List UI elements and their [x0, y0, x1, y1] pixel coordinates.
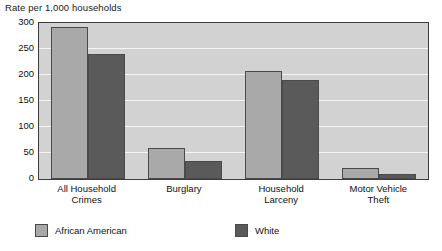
bar-1-2 [282, 80, 319, 179]
x-tick-label-3: Motor VehicleTheft [350, 183, 408, 205]
bar-chart-figure: Rate per 1,000 households 05010015020025… [0, 0, 442, 251]
legend-entry-1: White [235, 222, 279, 238]
x-tick-label-line: Theft [350, 194, 408, 205]
chart-legend: African AmericanWhite [0, 222, 442, 244]
x-tick-label-line: Household [258, 183, 303, 194]
bars-layer [39, 23, 428, 179]
legend-swatch-icon [235, 224, 248, 237]
y-tick-label: 300 [18, 17, 34, 27]
x-tick-label-line: All Household [57, 183, 116, 194]
plot-area [38, 22, 429, 180]
y-tick-label: 0 [29, 173, 34, 183]
x-tick-label-line: Larceny [258, 194, 303, 205]
legend-entry-0: African American [35, 222, 127, 238]
y-tick-label: 50 [23, 147, 34, 157]
bar-1-3 [379, 174, 416, 179]
x-tick-label-line: Burglary [166, 183, 201, 194]
bar-0-1 [148, 148, 185, 179]
x-tick-label-line: Motor Vehicle [350, 183, 408, 194]
bar-1-1 [185, 161, 222, 179]
chart-title: Rate per 1,000 households [5, 2, 122, 13]
legend-label: White [255, 225, 279, 236]
x-axis: All HouseholdCrimesBurglaryHouseholdLarc… [38, 183, 429, 213]
x-tick-label-2: HouseholdLarceny [258, 183, 303, 205]
x-tick-label-1: Burglary [166, 183, 201, 194]
legend-label: African American [55, 225, 127, 236]
x-tick-label-0: All HouseholdCrimes [57, 183, 116, 205]
y-tick-label: 150 [18, 95, 34, 105]
bar-0-2 [245, 71, 282, 179]
legend-swatch-icon [35, 224, 48, 237]
y-tick-label: 200 [18, 69, 34, 79]
bar-0-3 [342, 168, 379, 179]
x-tick-label-line: Crimes [57, 194, 116, 205]
bar-1-0 [88, 54, 125, 179]
y-tick-label: 100 [18, 121, 34, 131]
y-tick-label: 250 [18, 43, 34, 53]
y-axis: 050100150200250300 [0, 22, 34, 180]
bar-0-0 [51, 27, 88, 179]
